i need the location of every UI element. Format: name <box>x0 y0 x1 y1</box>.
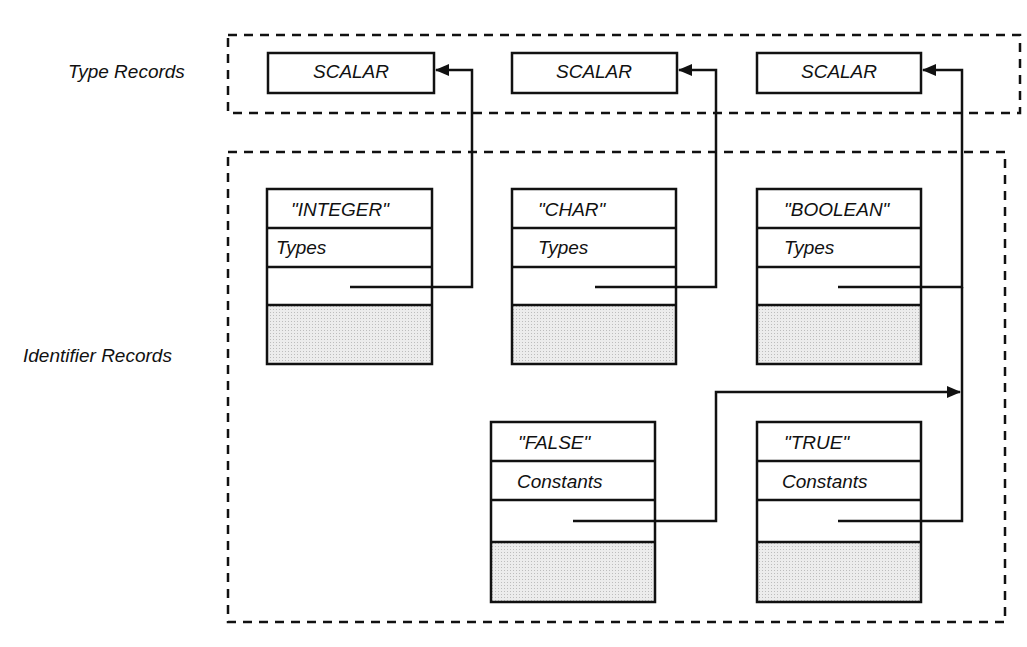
identifier-kind: Types <box>276 237 327 258</box>
identifier-name: "BOOLEAN" <box>784 199 891 220</box>
identifier-name: "INTEGER" <box>291 199 390 220</box>
type-record-scalar-1: SCALAR <box>268 53 434 93</box>
type-record-scalar-2: SCALAR <box>512 53 677 93</box>
identifier-name: "FALSE" <box>518 432 592 453</box>
identifier-kind: Types <box>538 237 589 258</box>
identifier-records-label: Identifier Records <box>23 345 172 366</box>
identifier-kind: Constants <box>782 471 868 492</box>
type-record-scalar-3: SCALAR <box>757 53 921 93</box>
identifier-record-true: "TRUE" Constants <box>757 422 921 602</box>
type-record-label: SCALAR <box>801 61 877 82</box>
pointer-char-to-scalar <box>595 70 716 287</box>
identifier-record-integer: "INTEGER" Types <box>267 189 432 364</box>
identifier-kind: Constants <box>517 471 603 492</box>
identifier-kind: Types <box>784 237 835 258</box>
symbol-table-diagram: Type Records Identifier Records SCALAR S… <box>0 0 1027 647</box>
identifier-record-boolean: "BOOLEAN" Types <box>757 189 921 364</box>
identifier-name: "CHAR" <box>538 199 607 220</box>
type-records-label: Type Records <box>68 61 185 82</box>
identifier-record-char: "CHAR" Types <box>512 189 676 364</box>
pointer-boolean-to-scalar <box>838 70 962 287</box>
identifier-name: "TRUE" <box>784 432 850 453</box>
type-record-label: SCALAR <box>556 61 632 82</box>
pointer-integer-to-scalar <box>350 70 472 287</box>
type-record-label: SCALAR <box>313 61 389 82</box>
pointer-false-to-boolean-link <box>573 392 960 521</box>
identifier-record-false: "FALSE" Constants <box>491 422 655 602</box>
